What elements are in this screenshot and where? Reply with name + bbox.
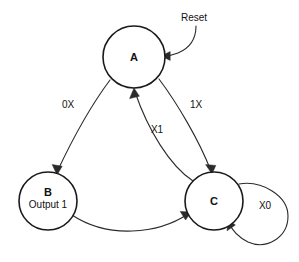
transition-a-to-b-path [57,80,110,172]
transition-a-to-b: 0X [52,80,110,175]
transition-b-to-c-path [72,214,188,231]
state-a-label: A [130,51,138,63]
reset-arrow: Reset [161,12,207,61]
transition-c-to-a-label: X1 [151,124,164,135]
state-b-output-label: Output 1 [29,199,68,210]
state-node-a[interactable]: A [103,26,165,88]
transition-a-to-c-label: 1X [190,99,203,110]
state-b-label: B [44,186,52,198]
transition-c-self-loop-label: X0 [259,200,272,211]
transition-a-to-b-label: 0X [62,99,75,110]
transition-a-to-c: 1X [159,79,216,174]
state-diagram-canvas: 0X 1X X1 X0 Reset [0,0,299,262]
reset-label: Reset [181,12,207,23]
transition-c-to-a-arrowhead [130,88,140,99]
state-node-c[interactable]: C [185,172,243,230]
transition-c-to-a-path [135,92,193,181]
transition-b-to-c [72,211,191,231]
reset-arrow-path [164,26,196,56]
transition-c-to-a: X1 [130,88,193,181]
transition-a-to-c-path [159,79,211,171]
state-c-label: C [210,195,218,207]
state-diagram: 0X 1X X1 X0 Reset [0,0,299,262]
state-node-b[interactable]: B Output 1 [19,172,77,230]
